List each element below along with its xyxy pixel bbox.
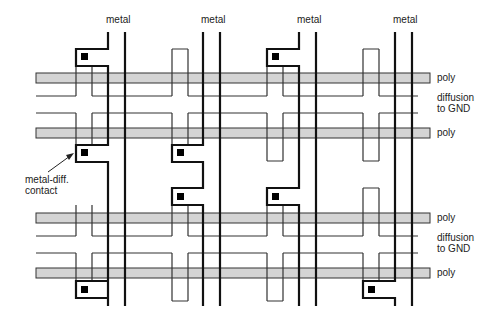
contact-1 (81, 53, 88, 60)
poly-layer (36, 73, 430, 278)
poly-band-3 (36, 213, 430, 223)
label-poly-3: poly (437, 212, 455, 223)
label-metal-3: metal (297, 14, 321, 25)
label-metal-1: metal (106, 14, 130, 25)
poly-band-4 (36, 268, 430, 278)
contact-7 (272, 193, 279, 200)
label-poly-4: poly (437, 267, 455, 278)
contact-4 (177, 149, 184, 156)
diff-col4-upper (363, 49, 379, 161)
diff-col4-lower (363, 188, 379, 281)
poly-band-1 (36, 73, 430, 83)
poly-band-2 (36, 128, 430, 138)
arrow-head-icon (66, 153, 74, 160)
layout-diagram: metal metal metal metal poly diffusion t… (0, 0, 496, 336)
label-metal-2: metal (201, 14, 225, 25)
contact-6 (272, 53, 279, 60)
label-contact-2: contact (25, 185, 57, 196)
label-diffusion-1a: diffusion (437, 92, 474, 103)
contact-5 (177, 193, 184, 200)
label-diffusion-2b: to GND (437, 243, 470, 254)
label-contact-1: metal-diff. (25, 174, 69, 185)
contact-2 (81, 149, 88, 156)
diffusion-layer (36, 49, 418, 301)
metal-1a-bottom-box (76, 281, 108, 298)
contact-arrow (48, 153, 74, 172)
label-poly-2: poly (437, 127, 455, 138)
contact-3 (81, 286, 88, 293)
label-diffusion-2a: diffusion (437, 232, 474, 243)
label-metal-4: metal (393, 14, 417, 25)
label-poly-1: poly (437, 72, 455, 83)
label-diffusion-1b: to GND (437, 103, 470, 114)
contact-8 (368, 286, 375, 293)
